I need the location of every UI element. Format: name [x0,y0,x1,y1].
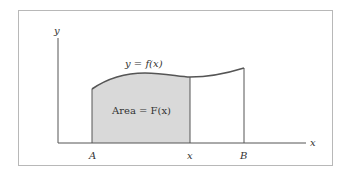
y-axis-label: y [53,25,60,36]
tick-label-x: x [187,150,193,161]
tick-label-b: B [239,150,247,161]
tick-label-a: A [88,150,96,161]
area-function-diagram: y x y = f(x) Area = F(x) A x B [0,0,350,183]
area-label: Area = F(x) [111,105,171,116]
x-axis-label: x [310,137,316,148]
curve-label: y = f(x) [124,58,163,69]
